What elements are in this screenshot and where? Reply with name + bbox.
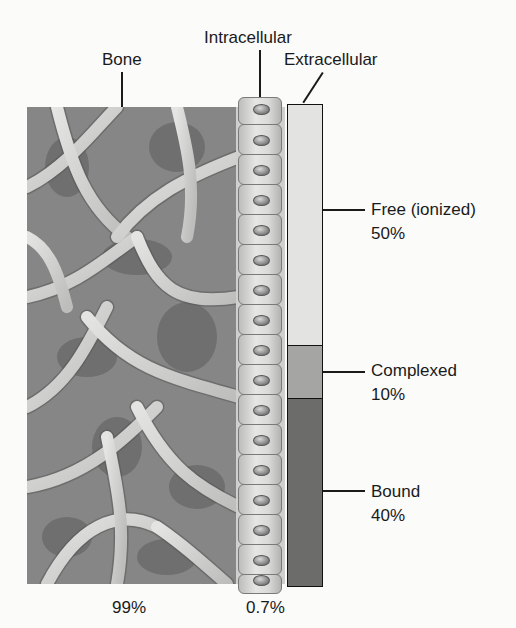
nucleus-icon xyxy=(253,555,270,566)
nucleus-icon xyxy=(253,104,270,115)
cell xyxy=(238,334,282,365)
complexed-leader-line xyxy=(323,371,365,373)
cell xyxy=(238,394,282,425)
nucleus-icon xyxy=(253,315,270,326)
nucleus-icon xyxy=(253,465,270,476)
cell xyxy=(238,304,282,335)
extracellular-label: Extracellular xyxy=(284,50,378,70)
cell xyxy=(238,154,282,185)
nucleus-icon xyxy=(253,435,270,446)
nucleus-icon xyxy=(253,525,270,536)
nucleus-icon xyxy=(253,345,270,356)
nucleus-icon xyxy=(253,575,270,586)
complexed-percent: 10% xyxy=(371,385,405,405)
complexed-label: Complexed xyxy=(371,361,457,381)
cell xyxy=(238,184,282,215)
nucleus-icon xyxy=(253,285,270,296)
cell xyxy=(238,484,282,515)
cell xyxy=(238,454,282,485)
bound-segment xyxy=(288,398,322,586)
nucleus-icon xyxy=(253,495,270,506)
extracellular-leader-line xyxy=(302,72,323,103)
nucleus-icon xyxy=(253,225,270,236)
background-bleed-text xyxy=(0,4,516,24)
cell xyxy=(238,574,282,594)
nucleus-icon xyxy=(253,375,270,386)
bone-label: Bone xyxy=(102,50,142,70)
intracellular-label: Intracellular xyxy=(204,28,292,48)
nucleus-icon xyxy=(253,405,270,416)
cell xyxy=(238,274,282,305)
free-ionized-segment xyxy=(288,105,322,345)
bone-percent: 99% xyxy=(112,598,146,618)
free-label: Free (ionized) xyxy=(371,200,476,220)
cell xyxy=(238,244,282,275)
cell xyxy=(238,514,282,545)
trabecular-bone-graphic xyxy=(27,107,239,584)
nucleus-icon xyxy=(253,165,270,176)
bound-percent: 40% xyxy=(371,506,405,526)
bound-leader-line xyxy=(323,490,365,492)
nucleus-icon xyxy=(253,195,270,206)
bone-illustration xyxy=(27,107,239,584)
bound-label: Bound xyxy=(371,482,420,502)
nucleus-icon xyxy=(253,135,270,146)
cell xyxy=(238,124,282,155)
nucleus-icon xyxy=(253,255,270,266)
cell xyxy=(238,97,282,125)
complexed-segment xyxy=(288,345,322,398)
intracellular-percent: 0.7% xyxy=(246,598,285,618)
free-percent: 50% xyxy=(371,224,405,244)
free-leader-line xyxy=(323,209,365,211)
cell-column xyxy=(236,107,285,584)
cell xyxy=(238,364,282,395)
cell xyxy=(238,424,282,455)
cell xyxy=(238,214,282,245)
extracellular-bar xyxy=(287,104,323,587)
cell xyxy=(238,544,282,575)
